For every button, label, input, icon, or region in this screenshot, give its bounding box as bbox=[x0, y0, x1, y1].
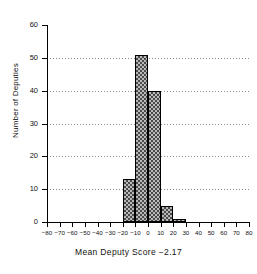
x-axis-tick bbox=[236, 223, 237, 227]
y-axis-tick bbox=[42, 58, 47, 59]
x-axis-tick bbox=[186, 223, 187, 227]
x-axis-title: Mean Deputy Score −2.17 bbox=[0, 247, 257, 257]
y-axis-tick-label: 50 bbox=[4, 54, 38, 62]
y-axis-tick-label: 30 bbox=[4, 120, 38, 128]
x-axis-tick bbox=[72, 223, 73, 227]
histogram-bar bbox=[161, 206, 174, 222]
y-axis-tick bbox=[42, 189, 47, 190]
y-axis-tick-label: 60 bbox=[4, 21, 38, 29]
x-axis-tick bbox=[110, 223, 111, 227]
x-axis-tick bbox=[98, 223, 99, 227]
x-axis-tick bbox=[173, 223, 174, 227]
x-axis-tick bbox=[199, 223, 200, 227]
y-axis-tick-label: 10 bbox=[4, 185, 38, 193]
x-axis-tick bbox=[47, 223, 48, 227]
x-axis-tick bbox=[123, 223, 124, 227]
x-axis-tick bbox=[249, 223, 250, 227]
y-axis-tick-label: 20 bbox=[4, 152, 38, 160]
histogram-figure: 0102030405060 −80−70−60−50−40−30−20−1001… bbox=[0, 0, 257, 274]
x-axis-tick bbox=[148, 223, 149, 227]
x-axis-tick bbox=[211, 223, 212, 227]
plot-area bbox=[47, 25, 249, 222]
histogram-bar bbox=[123, 179, 136, 222]
x-axis-tick bbox=[161, 223, 162, 227]
y-axis-line bbox=[47, 25, 48, 223]
y-axis-tick bbox=[42, 91, 47, 92]
x-axis-tick bbox=[85, 223, 86, 227]
histogram-bar bbox=[135, 55, 148, 222]
x-axis-tick-label: 80 bbox=[238, 229, 257, 236]
y-axis-tick bbox=[42, 25, 47, 26]
x-axis-tick bbox=[60, 223, 61, 227]
x-axis-tick bbox=[135, 223, 136, 227]
y-axis-tick bbox=[42, 156, 47, 157]
histogram-bar bbox=[148, 91, 161, 222]
y-axis-tick-label: 40 bbox=[4, 87, 38, 95]
x-axis-tick bbox=[224, 223, 225, 227]
y-axis-tick-label: 0 bbox=[4, 218, 38, 226]
y-axis-title: Number of Deputies bbox=[11, 41, 20, 161]
y-axis-tick bbox=[42, 124, 47, 125]
